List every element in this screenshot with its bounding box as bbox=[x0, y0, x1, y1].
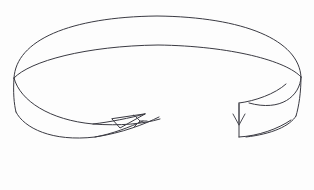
mobius-band-diagram bbox=[0, 0, 314, 190]
figure-canvas: Mobius band with orientation arrows Hand… bbox=[0, 0, 314, 190]
